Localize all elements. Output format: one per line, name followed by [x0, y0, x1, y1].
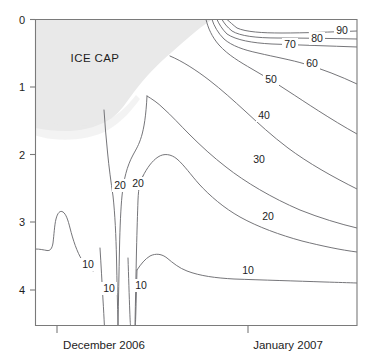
contour-label-10-right: 10	[242, 264, 254, 276]
y-tick-label-4: 4	[19, 284, 25, 296]
x-tick-label-january: January 2007	[253, 339, 323, 351]
contour-label-70: 70	[284, 38, 296, 50]
contour-label-60: 60	[306, 57, 318, 69]
y-tick-label-2: 2	[19, 149, 25, 161]
contour-label-50: 50	[265, 73, 277, 85]
contour-label-10-mid-a: 10	[103, 282, 115, 294]
icecap-region	[36, 20, 213, 140]
contour-label-40: 40	[258, 109, 270, 121]
contour-label-80: 80	[311, 32, 323, 44]
y-axis-tick-labels: 0 1 2 3 4	[19, 14, 25, 297]
contour-line-20-right	[143, 155, 357, 252]
y-tick-label-1: 1	[19, 81, 25, 93]
contour-label-20-mid-a: 20	[114, 179, 126, 191]
contour-plot-figure: 0 1 2 3 4 December 2006 January 2007 ICE…	[0, 0, 371, 364]
contour-label-10-left: 10	[82, 258, 94, 270]
contour-label-20-right: 20	[262, 210, 274, 222]
contour-label-20-mid-b: 20	[132, 177, 144, 189]
y-tick-label-3: 3	[19, 216, 25, 228]
icecap-label: ICE CAP	[71, 52, 120, 64]
contour-label-30: 30	[253, 153, 265, 165]
contour-label-90: 90	[336, 24, 348, 36]
y-tick-label-0: 0	[19, 14, 25, 26]
contour-line-10-mid-b	[128, 258, 131, 326]
contour-label-10-mid-b: 10	[135, 279, 147, 291]
x-axis-tick-labels: December 2006 January 2007	[63, 339, 323, 351]
x-tick-label-december: December 2006	[63, 339, 145, 351]
plot-canvas: 0 1 2 3 4 December 2006 January 2007 ICE…	[0, 0, 371, 364]
